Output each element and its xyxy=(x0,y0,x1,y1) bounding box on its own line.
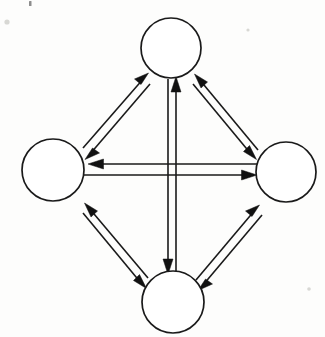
edge-left-bottom-line-toward-bottom xyxy=(83,213,141,283)
arrowhead-into-right-from-left xyxy=(242,170,258,180)
scan-speck-bottom-right xyxy=(307,287,311,291)
arrowhead-into-right-from-bottom xyxy=(246,205,260,217)
arrowhead-into-left-from-top xyxy=(85,148,100,160)
scan-speck-top-left xyxy=(29,1,32,6)
edge-left-right xyxy=(84,159,258,180)
edge-top-left-line-toward-left xyxy=(90,84,150,154)
arrowhead-into-top-from-bottom xyxy=(171,77,181,93)
scan-smudge-left xyxy=(4,19,9,24)
edge-left-bottom xyxy=(83,203,148,289)
edge-top-right xyxy=(193,74,258,160)
node-top[interactable] xyxy=(141,18,201,78)
node-left[interactable] xyxy=(22,139,84,201)
edge-top-left-line-toward-top xyxy=(83,78,144,148)
node-bottom[interactable] xyxy=(142,271,204,333)
figure-canvas xyxy=(0,0,325,337)
edge-top-right-line-toward-top xyxy=(199,79,258,150)
edge-right-bottom-line-toward-right xyxy=(196,210,255,280)
edge-top-left xyxy=(83,73,150,160)
arrowhead-into-left-from-right xyxy=(88,159,104,169)
scan-speck-top-right xyxy=(246,28,249,31)
node-right[interactable] xyxy=(256,142,316,202)
arrowhead-into-top-from-left xyxy=(135,73,149,85)
edge-right-bottom xyxy=(196,205,262,291)
edge-top-right-line-toward-right xyxy=(193,84,251,154)
edge-right-bottom-line-toward-bottom xyxy=(203,215,262,285)
edge-left-bottom-line-toward-left xyxy=(89,208,148,278)
graph-diagram xyxy=(0,0,325,337)
